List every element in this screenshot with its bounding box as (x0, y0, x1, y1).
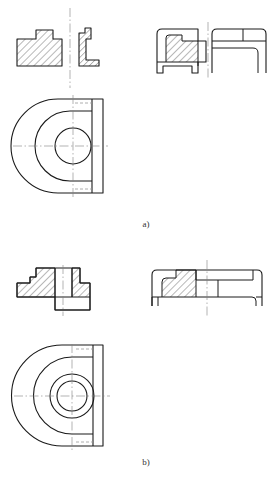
half-section-b-inner-profile (218, 297, 256, 306)
plan-view-a (11, 95, 108, 198)
figure-label-b: b) (131, 457, 161, 467)
half-section-b-hatch (162, 270, 196, 297)
plan-view-b (12, 344, 111, 450)
figure-label-a: a) (131, 219, 161, 229)
front-elevation-a-hatched-core (166, 35, 198, 62)
figure-b (12, 260, 263, 450)
figure-a (11, 8, 266, 198)
side-elevation-a (212, 29, 266, 73)
side-section-a (79, 28, 99, 66)
side-elevation-a-inner-profile (212, 48, 258, 73)
front-section-b (17, 265, 90, 316)
half-section-b (152, 260, 262, 318)
front-elevation-a (157, 29, 206, 73)
front-section-b-foot (55, 297, 90, 310)
side-section-a-outline (79, 28, 99, 66)
front-section-b-hatch-right (72, 268, 90, 297)
front-section-b-hatch-left (17, 268, 55, 297)
front-section-a-outline (17, 30, 62, 66)
plan-b-inner-arc (34, 357, 94, 434)
drawing-sheet (0, 0, 276, 480)
front-section-a (17, 30, 62, 66)
